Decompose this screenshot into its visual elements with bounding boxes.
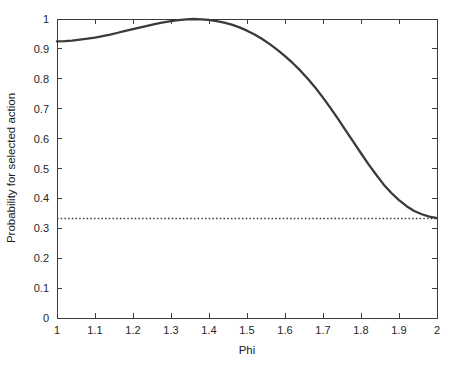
x-tick-label: 1.2: [125, 324, 140, 336]
x-tick-label: 1.3: [163, 324, 178, 336]
y-tick-label: 0.5: [34, 163, 49, 175]
x-tick-label: 1: [54, 324, 60, 336]
x-axis-tick-labels: 11.11.21.31.41.51.61.71.81.92: [54, 324, 440, 336]
x-axis-title: Phi: [239, 344, 256, 356]
x-tick-label: 1.9: [391, 324, 406, 336]
y-axis-tick-labels: 00.10.20.30.40.50.60.70.80.91: [34, 13, 49, 324]
x-tick-label: 2: [434, 324, 440, 336]
probability-line-chart: 11.11.21.31.41.51.61.71.81.92 00.10.20.3…: [0, 0, 459, 366]
x-tick-label: 1.7: [315, 324, 330, 336]
y-tick-label: 0.8: [34, 73, 49, 85]
y-tick-label: 1: [43, 13, 49, 25]
x-tick-label: 1.4: [201, 324, 216, 336]
x-tick-label: 1.6: [277, 324, 292, 336]
x-tick-label: 1.8: [353, 324, 368, 336]
y-axis-title: Probability for selected action: [5, 93, 17, 243]
x-tick-label: 1.5: [239, 324, 254, 336]
y-tick-label: 0.3: [34, 222, 49, 234]
chart-figure: 11.11.21.31.41.51.61.71.81.92 00.10.20.3…: [0, 0, 459, 366]
y-tick-label: 0.4: [34, 192, 49, 204]
y-tick-label: 0: [43, 312, 49, 324]
plot-area-background: [57, 19, 437, 318]
y-tick-label: 0.1: [34, 282, 49, 294]
x-tick-label: 1.1: [87, 324, 102, 336]
y-tick-label: 0.9: [34, 43, 49, 55]
y-tick-label: 0.6: [34, 133, 49, 145]
y-tick-label: 0.7: [34, 103, 49, 115]
y-tick-label: 0.2: [34, 252, 49, 264]
